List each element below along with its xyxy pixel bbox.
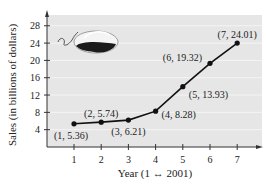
data-point [99, 120, 104, 125]
y-tick-label: 28 [30, 20, 40, 31]
y-tick-label: 24 [30, 38, 40, 49]
y-tick-label: 4 [35, 124, 40, 135]
x-tick-label: 7 [235, 154, 240, 165]
point-label: (3, 6.21) [111, 126, 145, 138]
point-label: (4, 8.28) [162, 109, 196, 121]
y-tick-label: 20 [30, 55, 40, 66]
x-tick-label: 2 [99, 154, 104, 165]
point-label: (5, 13.93) [189, 89, 228, 101]
data-point [235, 40, 240, 45]
data-point [180, 84, 185, 89]
data-point [71, 121, 76, 126]
y-tick-label: 16 [30, 72, 40, 83]
y-axis-label: Sales (in billions of dollars) [6, 24, 19, 147]
point-label: (6, 19.32) [163, 52, 202, 64]
x-tick-label: 4 [153, 154, 158, 165]
y-tick-label: 8 [35, 107, 40, 118]
y-tick-label: 12 [30, 90, 40, 101]
data-point [207, 61, 212, 66]
point-label: (2, 5.74) [84, 108, 118, 120]
x-tick-label: 1 [72, 154, 77, 165]
x-tick-label: 6 [208, 154, 213, 165]
point-label: (1, 5.36) [54, 130, 88, 142]
x-axis-label: Year (1 ↔ 2001) [118, 167, 193, 180]
point-label: (7, 24.01) [218, 29, 257, 41]
y-axis-arrow-icon [45, 10, 49, 17]
data-point [126, 118, 131, 123]
line-chart: 1234567481216202428 (1, 5.36)(2, 5.74)(3… [0, 0, 266, 188]
data-point [153, 109, 158, 114]
x-tick-label: 3 [126, 154, 131, 165]
x-tick-label: 5 [180, 154, 185, 165]
